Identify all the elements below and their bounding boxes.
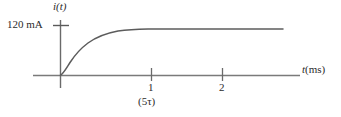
x-tick-sublabel-5tau: (5τ) bbox=[138, 96, 155, 107]
x-axis-title: t(ms) bbox=[302, 64, 325, 75]
figure-container: i(t) 120 mA t(ms) 1 (5τ) 2 bbox=[0, 0, 341, 117]
current-curve bbox=[61, 29, 284, 75]
exponential-current-plot bbox=[0, 0, 341, 117]
x-tick-label-1: 1 bbox=[148, 82, 154, 93]
x-axis-title-unit: (ms) bbox=[305, 63, 325, 75]
y-axis-title: i(t) bbox=[53, 1, 66, 12]
x-tick-label-2: 2 bbox=[219, 82, 225, 93]
y-axis-value-label: 120 mA bbox=[7, 19, 43, 30]
